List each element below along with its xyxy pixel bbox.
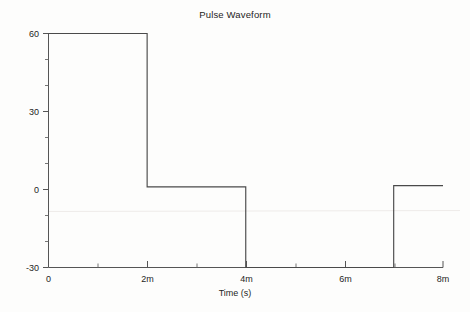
y-axis [43, 33, 49, 268]
y-tick-label-30: 30 [29, 107, 39, 117]
y-tick-label-minus30: -30 [26, 263, 39, 273]
x-tick-label-6m: 6m [339, 274, 352, 284]
waveform-trace [49, 34, 444, 268]
x-tick-label-0: 0 [46, 274, 51, 284]
y-tick-label-0: 0 [34, 185, 39, 195]
x-tick-label-2m: 2m [141, 274, 154, 284]
x-tick-label-8m: 8m [437, 274, 450, 284]
scan-artifact-line [48, 211, 460, 212]
x-axis-title: Time (s) [0, 288, 470, 298]
plot-area: 60 30 0 -30 0 2m 4m 6m 8m [0, 0, 470, 312]
y-tick-label-60: 60 [29, 29, 39, 39]
x-tick-label-4m: 4m [240, 274, 253, 284]
chart-container: Pulse Waveform Voltage (V) [0, 0, 470, 312]
